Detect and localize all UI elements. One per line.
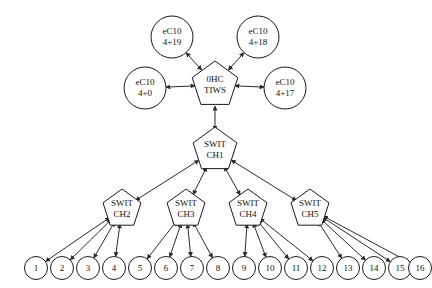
- edge-switch1-to-switch-4: [224, 167, 240, 195]
- endpoint-4-0-line2: 4+0: [138, 88, 153, 98]
- switch-0-line1: 0HC: [206, 74, 223, 84]
- edge-root-to-endpoint-4-19: [186, 53, 202, 70]
- edge-switch-4-to-leaf-11: [257, 221, 288, 259]
- endpoint-4-0: eC104+0: [124, 67, 166, 109]
- leaf-node-10: 10: [259, 257, 282, 280]
- leaf-node-9: 9: [233, 257, 256, 280]
- switch-3: SWITCH3: [167, 189, 205, 225]
- leaf-node-13-label: 13: [344, 263, 354, 273]
- leaf-node-16: 16: [409, 257, 432, 280]
- switch-4-line2: CH4: [239, 209, 257, 219]
- leaf-node-8-label: 8: [216, 263, 221, 273]
- switch-1: SWITCH1: [193, 127, 237, 169]
- leaf-node-15-label: 15: [396, 263, 406, 273]
- switch-2: SWITCH2: [103, 189, 141, 225]
- endpoint-4-17: eC104+17: [264, 67, 306, 109]
- node-layer: eC104+19eC104+18eC104+0eC104+170HCTIWSSW…: [25, 16, 432, 280]
- edge-switch-3-to-leaf-5: [147, 221, 177, 259]
- edge-root-to-endpoint-4-0: [166, 86, 195, 87]
- endpoint-4-18-line1: eC10: [249, 26, 268, 36]
- endpoint-4-0-line1: eC10: [136, 77, 155, 87]
- endpoint-4-17-line1: eC10: [276, 77, 295, 87]
- endpoint-4-17-line2: 4+17: [276, 88, 295, 98]
- endpoint-4-19-line1: eC10: [163, 26, 182, 36]
- edge-root-to-endpoint-4-17: [235, 86, 264, 87]
- switch-5-line2: CH5: [301, 209, 319, 219]
- leaf-node-14-label: 14: [370, 263, 380, 273]
- leaf-node-6: 6: [155, 257, 178, 280]
- switch-4-line1: SWIT: [237, 198, 259, 208]
- leaf-node-4-label: 4: [112, 263, 117, 273]
- edge-switch-2-to-leaf-1: [45, 217, 109, 261]
- leaf-node-2-label: 2: [60, 263, 65, 273]
- switch-1-line1: SWIT: [204, 139, 226, 149]
- leaf-node-12: 12: [311, 257, 334, 280]
- edge-switch-3-to-leaf-7: [188, 224, 191, 257]
- leaf-node-1: 1: [25, 257, 48, 280]
- leaf-node-7: 7: [181, 257, 204, 280]
- leaf-node-14: 14: [363, 257, 386, 280]
- leaf-node-3: 3: [77, 257, 100, 280]
- edge-switch-5-to-leaf-14: [321, 219, 366, 260]
- leaf-node-7-label: 7: [190, 263, 195, 273]
- switch-4: SWITCH4: [229, 189, 267, 225]
- switch-2-line1: SWIT: [111, 198, 133, 208]
- leaf-node-9-label: 9: [242, 263, 247, 273]
- leaf-node-8: 8: [207, 257, 230, 280]
- leaf-node-5: 5: [129, 257, 152, 280]
- endpoint-4-19: eC104+19: [151, 16, 193, 58]
- edge-root-to-endpoint-4-18: [228, 53, 244, 70]
- edge-switch-3-to-leaf-8: [193, 222, 212, 258]
- edge-switch-2-to-leaf-3: [94, 222, 115, 258]
- edge-switch-5-to-leaf-16: [323, 216, 410, 262]
- endpoint-4-18: eC104+18: [237, 16, 279, 58]
- leaf-node-6-label: 6: [164, 263, 169, 273]
- leaf-node-11-label: 11: [292, 263, 301, 273]
- leaf-node-13: 13: [337, 257, 360, 280]
- leaf-node-11: 11: [285, 257, 308, 280]
- leaf-node-4: 4: [103, 257, 126, 280]
- leaf-node-16-label: 16: [416, 263, 426, 273]
- leaf-node-1-label: 1: [34, 263, 39, 273]
- endpoint-4-19-line2: 4+19: [163, 37, 182, 47]
- endpoint-4-18-line2: 4+18: [249, 37, 268, 47]
- leaf-node-2: 2: [51, 257, 74, 280]
- topology-canvas: eC104+19eC104+18eC104+0eC104+170HCTIWSSW…: [0, 0, 432, 288]
- switch-1-line2: CH1: [206, 150, 223, 160]
- switch-5: SWITCH5: [291, 189, 329, 225]
- leaf-node-12-label: 12: [318, 263, 327, 273]
- leaf-node-5-label: 5: [138, 263, 143, 273]
- edge-switch1-to-switch-3: [193, 167, 207, 195]
- edge-switch-2-to-leaf-4: [116, 224, 120, 257]
- switch-5-line1: SWIT: [299, 198, 321, 208]
- network-topology-diagram: eC104+19eC104+18eC104+0eC104+170HCTIWSSW…: [0, 0, 432, 288]
- switch-3-line1: SWIT: [175, 198, 197, 208]
- switch-0-line2: TIWS: [204, 85, 226, 95]
- leaf-node-3-label: 3: [86, 263, 91, 273]
- edge-switch-5-to-leaf-15: [323, 217, 391, 261]
- switch-3-line2: CH3: [177, 209, 195, 219]
- edge-switch-4-to-leaf-9: [245, 224, 247, 257]
- switch-2-line2: CH2: [113, 209, 130, 219]
- leaf-node-10-label: 10: [266, 263, 276, 273]
